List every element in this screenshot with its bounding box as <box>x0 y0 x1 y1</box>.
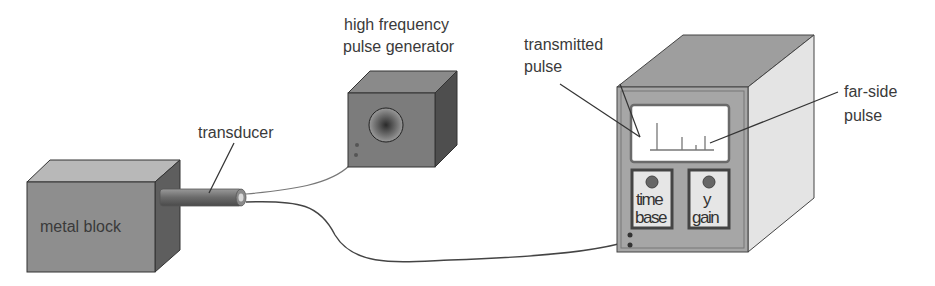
cable-to-oscilloscope <box>246 202 625 262</box>
metal-block-top <box>27 160 180 182</box>
metal-block-label: metal block <box>40 218 122 235</box>
transmitted-pulse-label-line2: pulse <box>524 58 562 75</box>
transducer-end-core <box>239 194 244 202</box>
diagram-canvas: metal block transducer high frequency pu… <box>0 0 935 286</box>
y-gain-knob[interactable] <box>703 176 715 188</box>
transducer-leader-line <box>209 143 234 193</box>
time-base-knob[interactable] <box>646 176 658 188</box>
oscilloscope-screen <box>631 105 729 162</box>
time-base-label-line1: time <box>636 190 663 209</box>
metal-block: metal block <box>27 160 180 272</box>
generator-terminal-icon <box>354 153 358 157</box>
oscilloscope: time base y gain <box>617 35 814 252</box>
time-base-label-line2: base <box>635 208 667 227</box>
y-gain-label-line2: gain <box>692 208 719 227</box>
pulse-generator: high frequency pulse generator <box>343 16 457 167</box>
oscilloscope-terminal-icon <box>628 243 633 248</box>
pulse-generator-speaker-icon <box>369 108 403 142</box>
transmitted-pulse-label-line1: transmitted <box>524 36 603 53</box>
oscilloscope-terminal-icon <box>628 233 633 238</box>
far-side-pulse-label-line1: far-side <box>844 83 897 100</box>
far-side-pulse-label-line2: pulse <box>844 107 882 124</box>
y-gain-control[interactable]: y gain <box>689 170 729 228</box>
time-base-control[interactable]: time base <box>632 170 672 228</box>
cable-to-generator <box>246 153 356 194</box>
pulse-generator-label-line1: high frequency <box>344 16 449 33</box>
transducer-label: transducer <box>198 124 274 141</box>
pulse-generator-label-line2: pulse generator <box>343 38 455 55</box>
generator-terminal-icon <box>355 143 359 147</box>
transducer-body <box>160 189 242 206</box>
